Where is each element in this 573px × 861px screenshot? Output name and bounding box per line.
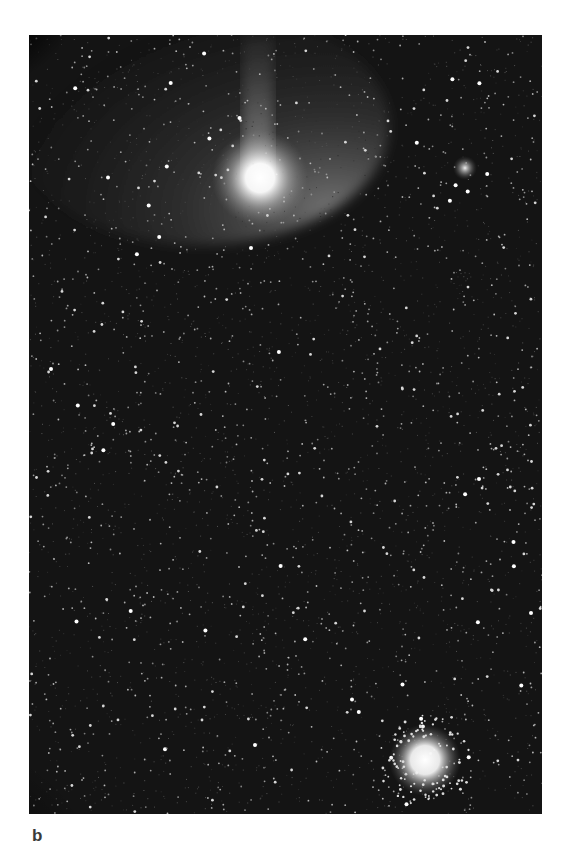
comet-head <box>212 130 308 226</box>
fuzzy-object <box>453 156 477 180</box>
panel-label: b <box>32 826 42 846</box>
vignette-bottom-left <box>29 744 99 814</box>
star-field <box>29 35 542 814</box>
astrophotograph <box>29 35 542 814</box>
